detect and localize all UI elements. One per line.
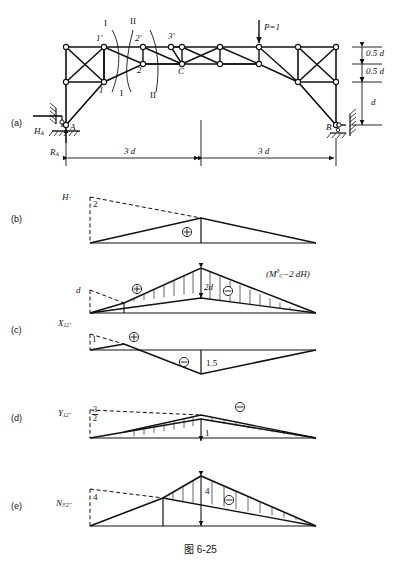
influence-line-e: [90, 476, 316, 526]
joint-label-B: B: [326, 122, 332, 132]
joint-label-C: C: [178, 66, 184, 76]
span-dimensions: [66, 120, 336, 166]
panel-label-b: (b): [11, 214, 22, 224]
il-note-rest: −2 dH): [283, 269, 310, 279]
lower-envelope-e: [163, 498, 316, 526]
panel-label-e: (e): [11, 501, 22, 511]
joint-label-1p: 1': [96, 33, 102, 43]
joint-label-2: 2: [137, 65, 142, 75]
il-label-b: H·: [62, 192, 72, 202]
il-ordinate-c: 1: [92, 334, 97, 344]
lower-chord-left: [66, 64, 182, 125]
section-mark-I-bottom: I: [120, 88, 123, 98]
il-peak-c: 1.5: [206, 358, 217, 368]
il-ordinate-d: 3 2: [92, 406, 98, 424]
reaction-R-label: RA: [50, 147, 59, 157]
span-dim-1: 3 d: [124, 146, 135, 156]
dashed-cu: [90, 290, 124, 303]
sign-minus-c: [179, 357, 188, 366]
right-panel-members: [298, 47, 336, 82]
joint-label-2p: 2': [135, 33, 141, 43]
il-peak-cu: 2d: [204, 282, 213, 292]
dashed-e: [90, 489, 163, 498]
influence-line-c: [90, 332, 316, 374]
il-label-e: N3'2'·: [56, 498, 73, 508]
lower-chord-right: [220, 64, 336, 125]
sign-minus-d: [235, 402, 244, 411]
reaction-H-label: HA: [34, 126, 44, 136]
il-label-c: X12·: [58, 318, 72, 328]
sign-minus-cu: [223, 286, 232, 295]
height-dim-3: d: [371, 97, 376, 107]
section-cut-I: [112, 30, 133, 92]
figure-caption: 图 6-25: [0, 541, 401, 556]
section-cut-II: [150, 30, 158, 92]
panel-label-d: (d): [11, 413, 22, 423]
height-dim-1: 0.5 d: [366, 48, 384, 58]
il-ordinate-e: 4: [93, 492, 98, 502]
panel-label-a: (a): [11, 118, 22, 128]
il-ordinate-cu: d: [76, 285, 81, 295]
height-dim-2: 0.5 d: [366, 66, 384, 76]
hatching-e: [173, 481, 306, 522]
load-label: P=1: [264, 22, 280, 32]
span-dim-2: 3 d: [258, 146, 269, 156]
frame-diagram: [33, 20, 382, 166]
pos-branch-c: [90, 344, 124, 350]
il-ordinate-d-den: 2: [92, 415, 98, 423]
influence-line-d: [90, 402, 316, 441]
curve-e: [90, 476, 316, 526]
il-note-cu: ((MM0C−2 dH): [266, 268, 310, 279]
left-panel-members: [66, 47, 104, 82]
joint-label-3p: 3': [168, 31, 174, 41]
il-peak-e: 4: [205, 486, 210, 496]
sign-plus-cu: [132, 284, 141, 293]
figure-6-25: [0, 0, 401, 567]
il-label-d: Y12·: [58, 408, 72, 418]
section-mark-II-top: II: [130, 16, 136, 26]
sign-plus-c: [129, 332, 138, 341]
panel-label-c: (c): [11, 325, 22, 335]
il-ordinate-b: 2: [93, 199, 98, 209]
influence-line-b: [90, 197, 316, 243]
height-dimensions: [352, 47, 382, 125]
curve-b: [90, 218, 316, 243]
outer-curve-d: [90, 419, 316, 438]
dashed-b: [90, 197, 201, 218]
joint-label-1: 1: [99, 85, 104, 95]
sign-plus-b: [182, 227, 191, 236]
sign-minus-e: [224, 495, 233, 504]
section-mark-I-top: I: [104, 18, 107, 28]
dashed-d: [90, 410, 201, 415]
section-mark-II-bottom: II: [150, 90, 156, 100]
reaction-R-sub: A: [56, 151, 59, 157]
neg-branch-c: [124, 344, 316, 374]
reaction-H-sub: A: [41, 130, 44, 136]
joint-label-A: A: [70, 122, 76, 132]
il-peak-d: 1: [205, 428, 210, 438]
il-label-e-sub: 3'2': [62, 502, 70, 508]
